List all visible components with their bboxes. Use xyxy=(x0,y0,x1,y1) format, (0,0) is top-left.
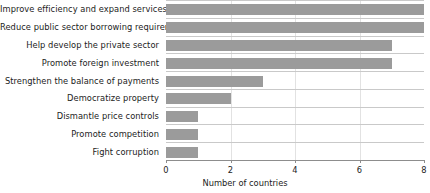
bar[interactable] xyxy=(166,40,392,51)
row-separator-line xyxy=(166,107,424,108)
category-label: Promote foreign investment xyxy=(0,59,159,68)
plot-area xyxy=(166,0,424,160)
bar[interactable] xyxy=(166,111,198,122)
row-separator-line xyxy=(166,18,424,19)
category-label: Democratize property xyxy=(0,94,159,103)
category-label: Promote competition xyxy=(0,130,159,139)
bar-chart: Improve efficiency and expand servicesRe… xyxy=(0,0,430,193)
x-axis-tick-mark xyxy=(424,160,425,163)
bar[interactable] xyxy=(166,147,198,158)
row-separator-line xyxy=(166,0,424,1)
row-separator-line xyxy=(166,53,424,54)
bar[interactable] xyxy=(166,22,424,33)
x-axis-title: Number of countries xyxy=(0,178,430,188)
x-axis-tick-label: 8 xyxy=(414,165,430,175)
category-label-column: Improve efficiency and expand servicesRe… xyxy=(0,0,163,160)
row-separator-line xyxy=(166,124,424,125)
x-axis-tick-label: 2 xyxy=(221,165,241,175)
x-axis-tick-label: 0 xyxy=(156,165,176,175)
bar[interactable] xyxy=(166,76,263,87)
row-separator-line xyxy=(166,36,424,37)
x-axis-tick-label: 6 xyxy=(350,165,370,175)
row-separator-line xyxy=(166,142,424,143)
category-label: Help develop the private sector xyxy=(0,41,159,50)
x-axis-tick-label: 4 xyxy=(285,165,305,175)
bar[interactable] xyxy=(166,93,231,104)
bar[interactable] xyxy=(166,58,392,69)
category-label: Strengthen the balance of payments xyxy=(0,77,159,86)
row-separator-line xyxy=(166,89,424,90)
x-axis-tick-mark xyxy=(166,160,167,163)
x-axis-tick-mark xyxy=(360,160,361,163)
category-label: Fight corruption xyxy=(0,148,159,157)
category-label: Reduce public sector borrowing requireme… xyxy=(0,23,159,32)
category-label: Improve efficiency and expand services xyxy=(0,5,159,14)
bar[interactable] xyxy=(166,4,424,15)
category-label: Dismantle price controls xyxy=(0,112,159,121)
bar[interactable] xyxy=(166,129,198,140)
x-axis-tick-mark xyxy=(295,160,296,163)
row-separator-line xyxy=(166,71,424,72)
x-axis-tick-mark xyxy=(231,160,232,163)
